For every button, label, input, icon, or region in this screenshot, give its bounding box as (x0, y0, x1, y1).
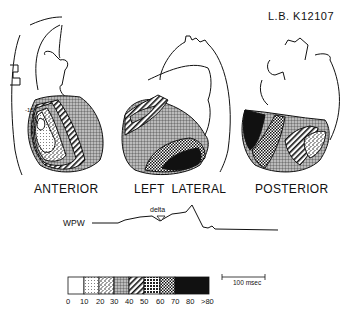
legend-tick: 70 (171, 297, 179, 306)
legend-tick: 20 (96, 297, 104, 306)
legend-tick: >80 (201, 297, 214, 306)
patient-id: L.B. K12107 (268, 10, 334, 22)
legend-tick: 80 (186, 297, 194, 306)
annotation-minus-15: -15 (25, 107, 34, 113)
view-label-left-lateral: LEFT LATERAL (134, 182, 226, 196)
legend-tick: 40 (125, 297, 133, 306)
delta-label: delta (150, 206, 165, 213)
anterior-heart (10, 17, 103, 175)
legend-tick: 0 (66, 297, 70, 306)
view-label-posterior: POSTERIOR (255, 182, 328, 196)
legend-bar (68, 277, 209, 294)
left-lateral-heart (122, 36, 230, 175)
heart-activation-diagram: -15 (0, 0, 348, 312)
view-label-anterior: ANTERIOR (34, 182, 98, 196)
trace-label: WPW (63, 218, 85, 228)
wpw-ecg-trace (92, 205, 278, 230)
legend-tick: 10 (80, 297, 88, 306)
scale-bar-label: 100 msec (233, 279, 261, 286)
legend-tick: 50 (140, 297, 148, 306)
legend-tick: 60 (156, 297, 164, 306)
posterior-heart (242, 38, 339, 172)
legend-tick: 30 (110, 297, 118, 306)
